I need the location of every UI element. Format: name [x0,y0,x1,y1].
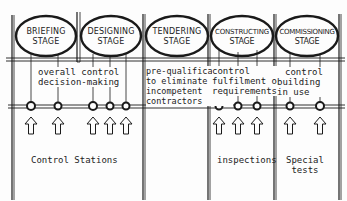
stage-sub: STAGE [212,37,272,47]
stage-sub: STAGE [149,37,205,47]
description-building-in-use: control building in use [277,67,323,97]
stage-name: CONSTRUCTING [212,27,272,37]
label-control-stations: Control Stations [31,155,118,165]
stage-sub: STAGE [277,37,337,47]
stage-sub: STAGE [20,37,72,47]
arrow-icons [25,117,326,134]
stage-designing: DESIGNING STAGE [84,27,138,47]
stage-name: DESIGNING [84,27,138,37]
stage-sub: STAGE [84,37,138,47]
label-special-tests: Special tests [286,155,324,175]
label-inspections: inspections [217,155,277,165]
stage-tendering: TENDERING STAGE [149,27,205,47]
stage-name: BRIEFING [20,27,72,37]
description-overall-control: overall control decision-making [38,67,119,87]
stage-name: TENDERING [149,27,205,37]
description-fulfilment: control fulfilment of requirements [212,66,282,96]
stage-briefing: BRIEFING STAGE [20,27,72,47]
stage-constructing: CONSTRUCTING STAGE [212,27,272,47]
stage-commissioning: COMMISSIONING STAGE [277,27,337,47]
stage-name: COMMISSIONING [277,27,337,37]
